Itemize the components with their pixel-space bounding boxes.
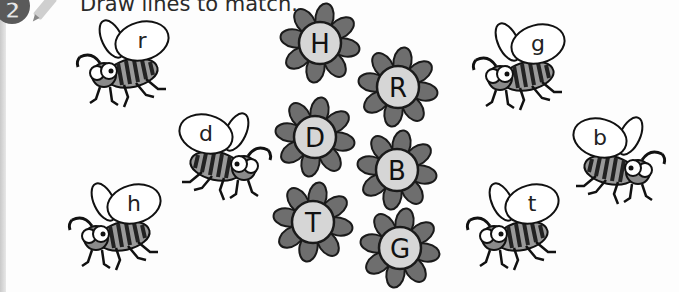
flower-letter: B [388, 156, 406, 186]
instruction-text: Draw lines to match. [80, 0, 298, 16]
flower-letter: D [305, 123, 325, 153]
bee-letter: r [137, 28, 147, 53]
bee-letter: b [593, 125, 607, 150]
exercise-number: 2 [5, 0, 20, 23]
bee-b[interactable]: b [562, 112, 672, 212]
flower-h[interactable]: H [275, 0, 365, 88]
bee-letter: t [528, 191, 537, 216]
flower-b[interactable]: B [352, 125, 442, 215]
flower-d[interactable]: D [270, 92, 360, 182]
bee-t[interactable]: t [460, 178, 570, 278]
flower-letter: R [389, 73, 407, 103]
flower-t[interactable]: T [268, 177, 358, 267]
pencil-icon [33, 0, 57, 20]
flower-letter: H [310, 29, 330, 59]
bee-letter: d [199, 121, 213, 146]
bee-letter: h [127, 191, 141, 216]
bee-g[interactable]: g [466, 18, 576, 118]
bee-letter: g [531, 31, 545, 56]
bee-r[interactable]: r [70, 15, 180, 115]
bee-d[interactable]: d [168, 108, 278, 208]
flower-letter: T [304, 208, 321, 238]
bee-h[interactable]: h [62, 178, 172, 278]
flower-letter: G [390, 234, 410, 264]
exercise-number-badge: 2 [0, 0, 30, 24]
worksheet-page: 2 Draw lines to match. rdhgbt HDTRBG [0, 0, 679, 292]
flower-r[interactable]: R [353, 42, 443, 132]
page-edge-strip [0, 10, 6, 292]
flower-g[interactable]: G [355, 203, 445, 292]
